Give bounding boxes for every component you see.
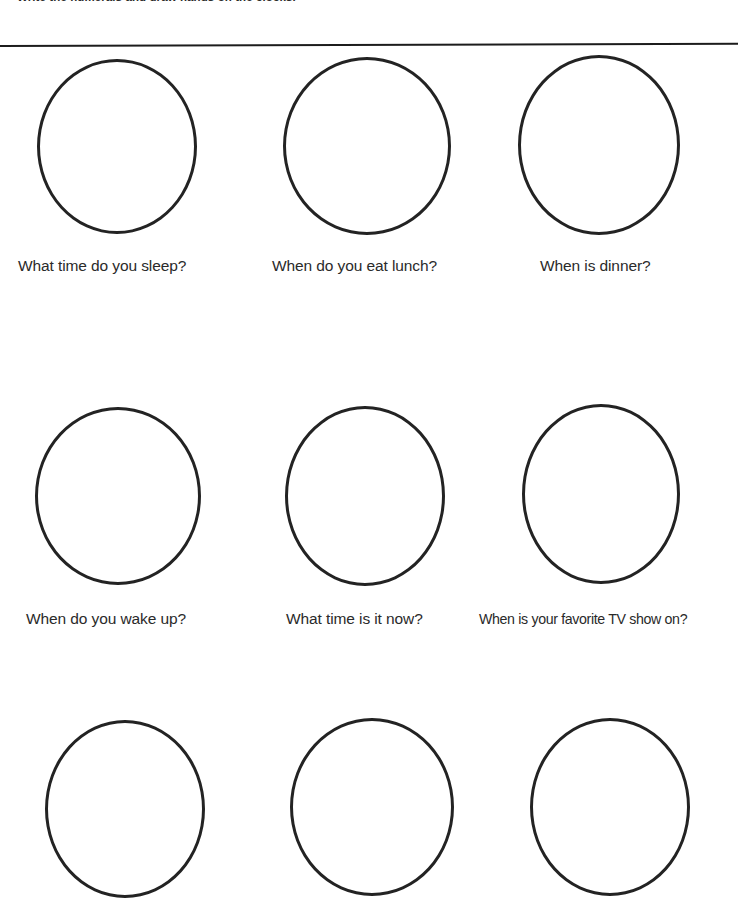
clock-face-clock-7[interactable] xyxy=(45,720,205,898)
header-divider-rule xyxy=(0,43,738,47)
clock-caption-clock-2: When do you eat lunch? xyxy=(272,257,437,275)
clock-caption-clock-1: What time do you sleep? xyxy=(18,257,186,275)
clock-caption-clock-6: When is your favorite TV show on? xyxy=(479,611,687,627)
clock-face-clock-1[interactable] xyxy=(37,59,197,234)
clock-face-clock-5[interactable] xyxy=(285,406,445,586)
clock-face-clock-2[interactable] xyxy=(283,57,451,235)
clock-face-clock-4[interactable] xyxy=(35,407,201,585)
clock-face-clock-3[interactable] xyxy=(518,55,680,235)
clock-caption-clock-5: What time is it now? xyxy=(286,610,423,628)
instruction-text: Write the numerals and draw hands on the… xyxy=(17,0,447,3)
clock-face-clock-8[interactable] xyxy=(290,718,454,896)
clock-caption-clock-4: When do you wake up? xyxy=(26,610,186,628)
clock-face-clock-6[interactable] xyxy=(522,404,680,584)
clock-caption-clock-3: When is dinner? xyxy=(540,257,651,275)
clock-face-clock-9[interactable] xyxy=(530,718,690,896)
